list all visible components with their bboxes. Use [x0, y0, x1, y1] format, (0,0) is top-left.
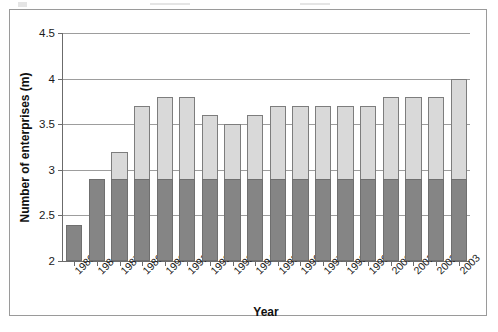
bar-1999: [360, 106, 376, 261]
bar-lower-segment: [224, 179, 240, 261]
bar-lower-segment: [383, 179, 399, 261]
bar-lower-segment: [337, 179, 353, 261]
bar-lower-segment: [315, 179, 331, 261]
bar-1993: [224, 124, 240, 261]
bar-lower-segment: [134, 179, 150, 261]
bar-lower-segment: [247, 179, 263, 261]
plot-area: 22.533.544.51980198419871989199019911992…: [62, 33, 470, 262]
y-axis-tick-mark: [58, 33, 63, 34]
y-axis-tick-mark: [58, 79, 63, 80]
gridline: [63, 79, 470, 80]
y-axis-tick-label: 2: [49, 255, 55, 267]
bar-lower-segment: [157, 179, 173, 261]
bar-lower-segment: [179, 179, 195, 261]
bar-lower-segment: [451, 179, 467, 261]
y-axis-tick-label: 3: [49, 164, 55, 176]
y-axis-tick-mark: [58, 261, 63, 262]
y-axis-tick-mark: [58, 215, 63, 216]
bar-1995: [270, 106, 286, 261]
bar-lower-segment: [428, 179, 444, 261]
bar-lower-segment: [202, 179, 218, 261]
bar-lower-segment: [89, 179, 105, 261]
bar-1994: [247, 115, 263, 261]
bar-1997: [315, 106, 331, 261]
bar-1991: [179, 97, 195, 261]
y-axis-tick-label: 3.5: [39, 118, 55, 130]
bar-2002: [428, 97, 444, 261]
bar-lower-segment: [405, 179, 421, 261]
y-axis-tick-label: 4: [49, 73, 55, 85]
scan-artifact: [300, 3, 330, 5]
y-axis-tick-mark: [58, 124, 63, 125]
y-axis-tick-mark: [58, 170, 63, 171]
bar-1980: [66, 225, 82, 261]
bar-1990: [157, 97, 173, 261]
scan-artifact: [150, 3, 190, 5]
bar-lower-segment: [66, 225, 82, 261]
bar-lower-segment: [360, 179, 376, 261]
bar-1992: [202, 115, 218, 261]
bar-2003: [451, 79, 467, 261]
bar-1987: [111, 152, 127, 261]
y-axis-tick-label: 2.5: [39, 209, 55, 221]
bar-1989: [134, 106, 150, 261]
bar-2000: [383, 97, 399, 261]
figure-bar-chart: Number of enterprises (m) 22.533.544.519…: [0, 0, 498, 332]
bar-lower-segment: [111, 179, 127, 261]
gridline: [63, 33, 470, 34]
y-axis-tick-label: 4.5: [39, 27, 55, 39]
bar-1996: [292, 106, 308, 261]
bar-lower-segment: [292, 179, 308, 261]
bar-lower-segment: [270, 179, 286, 261]
y-axis-title: Number of enterprises (m): [16, 33, 34, 262]
bar-2001: [405, 97, 421, 261]
scan-artifact: [18, 2, 27, 7]
bar-1984: [89, 179, 105, 261]
bar-1998: [337, 106, 353, 261]
x-axis-title: Year: [62, 305, 470, 319]
